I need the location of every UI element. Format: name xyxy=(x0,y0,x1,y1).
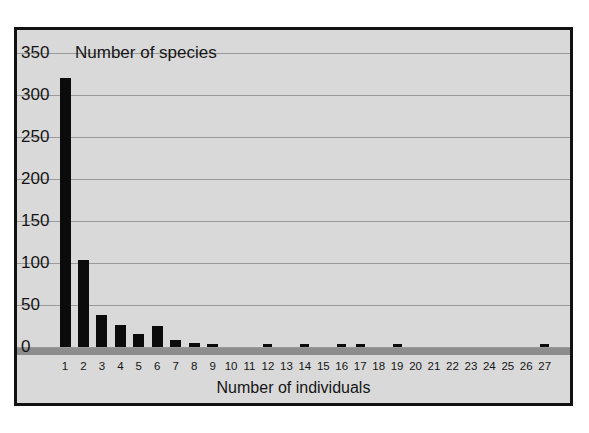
bar xyxy=(115,325,126,347)
x-axis-tick-label: 5 xyxy=(136,361,142,373)
x-axis-tick-label: 24 xyxy=(483,361,496,373)
x-axis-tick-label: 21 xyxy=(428,361,441,373)
bar xyxy=(207,344,218,347)
x-axis-tick-label: 27 xyxy=(538,361,551,373)
gridline xyxy=(17,347,570,348)
x-axis-tick-label: 12 xyxy=(262,361,275,373)
figure: Number of individuals 050100150200250300… xyxy=(0,0,589,433)
y-axis-tick-label: 150 xyxy=(21,212,49,229)
x-axis-tick-label: 18 xyxy=(372,361,385,373)
x-axis-tick-label: 15 xyxy=(317,361,330,373)
y-axis-tick-label: 100 xyxy=(21,254,49,271)
bar xyxy=(393,344,402,347)
x-axis-tick-label: 1 xyxy=(62,361,68,373)
gridline xyxy=(17,137,570,138)
chart-title: Number of species xyxy=(75,44,217,61)
bar xyxy=(78,260,89,347)
x-axis-tick-label: 11 xyxy=(244,361,256,373)
y-axis-tick-label: 300 xyxy=(21,86,49,103)
x-axis-tick-label: 20 xyxy=(409,361,422,373)
bar xyxy=(337,344,346,347)
x-axis-tick-label: 22 xyxy=(446,361,459,373)
x-axis-tick-label: 4 xyxy=(117,361,123,373)
plot-area: Number of individuals 050100150200250300… xyxy=(17,30,570,403)
x-axis-tick-label: 6 xyxy=(154,361,160,373)
x-axis-tick-label: 14 xyxy=(298,361,311,373)
bar xyxy=(152,326,163,347)
gridline xyxy=(17,95,570,96)
gridline xyxy=(17,221,570,222)
bar xyxy=(60,78,71,347)
y-axis-tick-label: 50 xyxy=(21,296,40,313)
bar xyxy=(263,344,272,347)
bar xyxy=(189,343,200,347)
axis-baseline xyxy=(17,347,570,355)
x-axis-tick-label: 2 xyxy=(80,361,86,373)
x-axis-tick-label: 19 xyxy=(391,361,404,373)
x-axis-tick-label: 16 xyxy=(335,361,348,373)
bar xyxy=(170,340,181,347)
x-axis-tick-label: 23 xyxy=(464,361,477,373)
bar xyxy=(300,344,309,347)
bar xyxy=(540,344,549,347)
y-axis-tick-label: 250 xyxy=(21,128,49,145)
x-axis-tick-label: 17 xyxy=(354,361,367,373)
gridline xyxy=(17,179,570,180)
x-axis-label: Number of individuals xyxy=(17,379,570,397)
bar xyxy=(96,315,107,347)
bar xyxy=(356,344,365,347)
gridline xyxy=(17,263,570,264)
gridline xyxy=(17,305,570,306)
x-axis-tick-label: 7 xyxy=(172,361,178,373)
x-axis-tick-label: 26 xyxy=(520,361,533,373)
x-axis-tick-label: 13 xyxy=(280,361,293,373)
x-axis-tick-label: 8 xyxy=(191,361,197,373)
y-axis-tick-label: 350 xyxy=(21,44,49,61)
x-axis-tick-label: 9 xyxy=(209,361,215,373)
chart-frame: Number of individuals 050100150200250300… xyxy=(14,27,573,406)
x-axis-tick-label: 25 xyxy=(501,361,514,373)
x-axis-tick-label: 10 xyxy=(225,361,238,373)
bar xyxy=(133,334,144,347)
y-axis-tick-label: 0 xyxy=(21,338,30,355)
x-axis-tick-label: 3 xyxy=(99,361,105,373)
y-axis-tick-label: 200 xyxy=(21,170,49,187)
